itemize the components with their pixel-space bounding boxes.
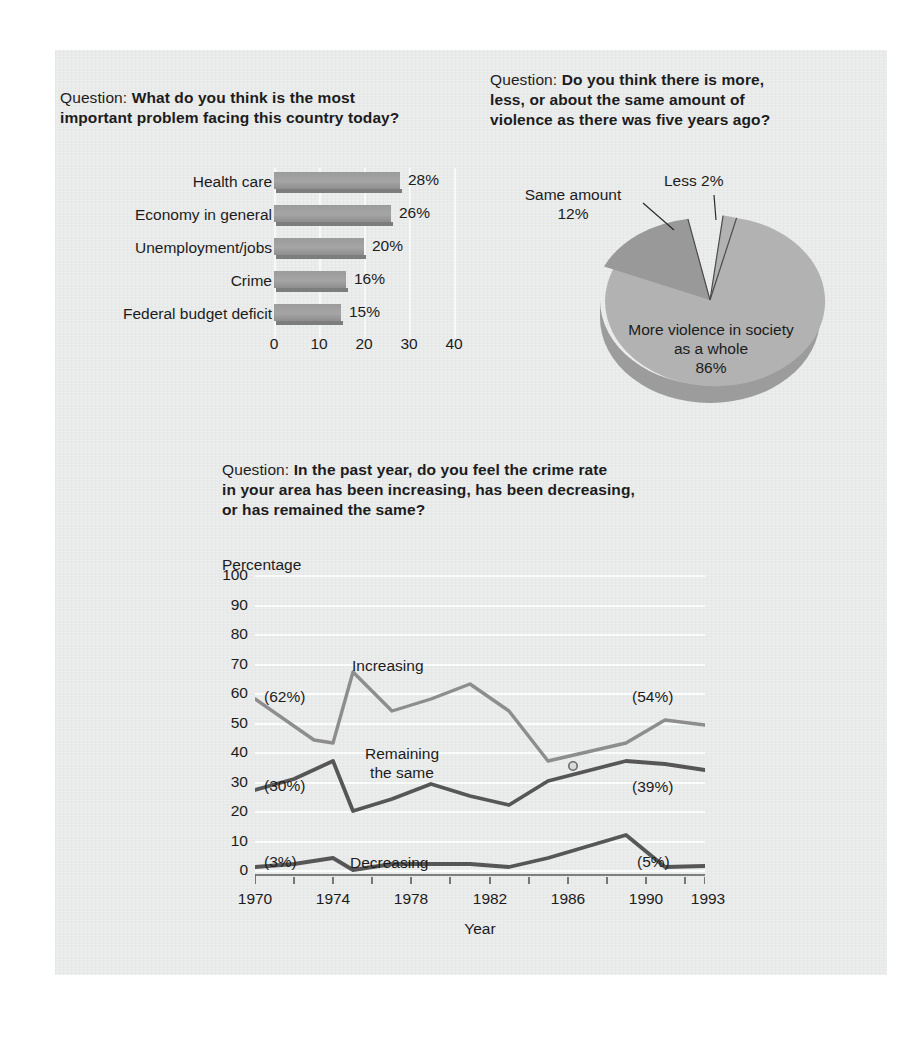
line-ytick: 20 xyxy=(231,802,248,820)
bar-track xyxy=(274,271,346,292)
bar-rows: Health care 28% Economy in general 26% U… xyxy=(60,170,500,335)
line-xtick-label: 1986 xyxy=(551,890,585,908)
line-series-graphic xyxy=(255,575,705,885)
line-question-line2: in your area has been increasing, has be… xyxy=(222,481,635,498)
bar-xtick: 10 xyxy=(310,335,327,353)
line-ytick: 0 xyxy=(239,861,248,879)
pie-label-more-line2: as a whole xyxy=(674,340,748,357)
line-start-value-increasing: (62%) xyxy=(264,688,305,706)
bar-question-lead: Question: xyxy=(60,89,127,106)
line-series-increasing xyxy=(255,672,705,761)
line-label-remaining: Remaining the same xyxy=(348,744,456,782)
line-label-remaining-line2: the same xyxy=(370,764,434,781)
line-ytick: 70 xyxy=(231,655,248,673)
line-xtick-label: 1974 xyxy=(316,890,350,908)
pie-chart: Question: Do you think there is more, le… xyxy=(490,70,890,440)
line-xtick-label: 1990 xyxy=(629,890,663,908)
line-question-lead: Question: xyxy=(222,461,289,478)
line-ytick: 40 xyxy=(231,743,248,761)
line-chart: Question: In the past year, do you feel … xyxy=(200,460,760,960)
bar-chart: Question: What do you think is the most … xyxy=(60,80,500,380)
bar-category-label: Federal budget deficit xyxy=(123,305,272,323)
pie-label-more-value: 86% xyxy=(695,359,726,376)
line-label-remaining-line1: Remaining xyxy=(365,745,439,762)
line-ytick: 30 xyxy=(231,773,248,791)
line-label-increasing: Increasing xyxy=(352,656,424,675)
bar-value-label: 28% xyxy=(408,171,439,189)
line-xtick-label: 1978 xyxy=(394,890,428,908)
pie-label-same: Same amount 12% xyxy=(508,185,638,223)
bar-fill xyxy=(274,172,400,189)
bar-xtick: 20 xyxy=(355,335,372,353)
bar-question-line2: important problem facing this country to… xyxy=(60,109,399,126)
bar-row: Federal budget deficit 15% xyxy=(60,302,500,335)
line-start-value-remaining: (30%) xyxy=(264,777,305,795)
line-xtick-label: 1982 xyxy=(473,890,507,908)
pie-leader-less xyxy=(714,195,716,220)
bar-category-label: Economy in general xyxy=(135,206,272,224)
line-xtick-label: 1993 xyxy=(691,890,725,908)
pie-label-more: More violence in society as a whole 86% xyxy=(586,320,836,377)
bar-xtick: 0 xyxy=(270,335,279,353)
bar-row: Health care 28% xyxy=(60,170,500,203)
line-label-decreasing: Decreasing xyxy=(350,853,428,872)
bar-track xyxy=(274,172,400,193)
bar-category-label: Unemployment/jobs xyxy=(135,239,272,257)
bar-fill xyxy=(274,304,341,321)
line-ytick: 60 xyxy=(231,684,248,702)
line-crossing-marker xyxy=(569,762,577,770)
bar-value-label: 26% xyxy=(399,204,430,222)
bar-value-label: 20% xyxy=(372,237,403,255)
line-ytick: 10 xyxy=(231,832,248,850)
line-end-value-decreasing: (5%) xyxy=(637,853,670,871)
bar-fill xyxy=(274,238,364,255)
line-question-line3: or has remained the same? xyxy=(222,501,425,518)
figure-page: Question: What do you think is the most … xyxy=(0,0,924,1041)
line-question-line1: In the past year, do you feel the crime … xyxy=(294,461,608,478)
pie-label-more-line1: More violence in society xyxy=(628,321,793,338)
line-ytick: 80 xyxy=(231,625,248,643)
line-ytick: 50 xyxy=(231,714,248,732)
pie-label-same-text: Same amount xyxy=(525,186,622,203)
bar-fill xyxy=(274,205,391,222)
bar-xtick: 30 xyxy=(400,335,417,353)
line-x-axis-title: Year xyxy=(200,920,760,938)
bar-row: Unemployment/jobs 20% xyxy=(60,236,500,269)
line-y-axis: 100 90 80 70 60 50 40 30 20 10 0 xyxy=(200,575,248,870)
bar-fill xyxy=(274,271,346,288)
bar-row: Economy in general 26% xyxy=(60,203,500,236)
line-ytick: 100 xyxy=(222,566,248,584)
pie-label-less: Less 2% xyxy=(664,171,723,190)
bar-category-label: Crime xyxy=(231,272,272,290)
line-end-value-increasing: (54%) xyxy=(632,688,673,706)
bar-value-label: 16% xyxy=(354,270,385,288)
bar-track xyxy=(274,304,341,325)
line-end-value-remaining: (39%) xyxy=(632,778,673,796)
bar-track xyxy=(274,205,391,226)
line-question: Question: In the past year, do you feel … xyxy=(222,460,692,520)
line-start-value-decreasing: (3%) xyxy=(264,853,297,871)
bar-question: Question: What do you think is the most … xyxy=(60,88,480,128)
pie-graphic xyxy=(490,70,890,440)
bar-xtick: 40 xyxy=(445,335,462,353)
line-xtick-label: 1970 xyxy=(238,890,272,908)
bar-track xyxy=(274,238,364,259)
bar-row: Crime 16% xyxy=(60,269,500,302)
bar-category-label: Health care xyxy=(193,173,272,191)
line-plot-area xyxy=(255,575,705,870)
bar-value-label: 15% xyxy=(349,303,380,321)
line-ytick: 90 xyxy=(231,596,248,614)
pie-label-same-value: 12% xyxy=(557,205,588,222)
bar-question-line1: What do you think is the most xyxy=(132,89,355,106)
